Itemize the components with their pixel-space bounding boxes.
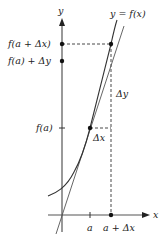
label-delta-x: Δx	[93, 133, 105, 143]
point-f-a-plus-dy-on-axis	[60, 59, 64, 63]
point-f-a-plus-dx-on-axis	[60, 42, 64, 46]
label-f-a: f(a)	[36, 123, 53, 133]
y-axis-label: y	[58, 6, 63, 16]
label-f-a-plus-dx: f(a + Δx)	[8, 39, 51, 49]
curve-label: y = f(x)	[110, 9, 146, 19]
label-a: a	[87, 223, 93, 233]
label-a-plus-dx: a + Δx	[103, 223, 135, 233]
derivative-diagram: y x y = f(x) f(a + Δx) f(a) + Δy f(a) Δy…	[0, 0, 167, 238]
point-a-plus-dx-on-x-axis	[109, 213, 113, 217]
x-axis-arrow-icon	[142, 212, 150, 218]
y-axis-arrow-icon	[59, 18, 65, 26]
point-on-curve-a-plus-dx	[109, 42, 113, 46]
diagram-canvas	[0, 0, 167, 238]
function-curve	[48, 20, 117, 196]
point-on-curve-a	[88, 126, 92, 130]
label-f-a-plus-dy: f(a) + Δy	[8, 56, 51, 66]
x-axis-label: x	[153, 210, 158, 220]
label-delta-y: Δy	[116, 89, 128, 99]
